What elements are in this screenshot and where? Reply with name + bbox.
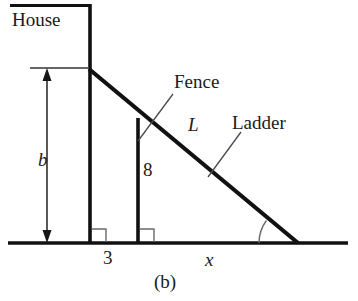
fence-height-label: 8 bbox=[143, 160, 153, 179]
base-angle-arc bbox=[259, 221, 266, 244]
height-dimension-arrow-down-head bbox=[43, 230, 52, 243]
right-angle-mark-fence bbox=[140, 229, 154, 242]
fence-to-base-distance-label: x bbox=[205, 250, 213, 269]
ladder-length-label: L bbox=[188, 115, 199, 134]
ladder-line bbox=[89, 69, 298, 243]
ladder-fence-diagram: House Fence Ladder L b 8 3 x (b) bbox=[0, 0, 358, 301]
ladder-label: Ladder bbox=[232, 113, 286, 132]
fence-label: Fence bbox=[174, 72, 219, 91]
figure-caption: (b) bbox=[154, 272, 176, 291]
house-to-fence-distance-label: 3 bbox=[103, 248, 113, 267]
house-label: House bbox=[12, 10, 61, 29]
house-height-label: b bbox=[38, 150, 48, 169]
diagram-canvas bbox=[0, 0, 358, 301]
ladder-leader-line bbox=[208, 132, 241, 177]
height-dimension-arrow-up-head bbox=[43, 68, 52, 81]
right-angle-mark-house bbox=[92, 229, 106, 242]
